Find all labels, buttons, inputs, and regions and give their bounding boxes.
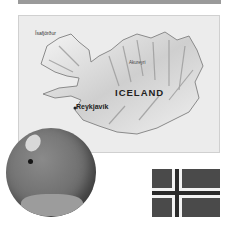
landmass xyxy=(21,194,83,216)
globe xyxy=(6,128,96,217)
place-label-akureyri: Akureyri xyxy=(129,60,146,65)
map-title: ICELAND xyxy=(115,87,164,98)
flag-cross-horizontal xyxy=(152,191,220,195)
place-label-isafjordur: Ísafjörður xyxy=(35,30,56,36)
header-bar xyxy=(18,0,221,4)
iceland-flag xyxy=(152,169,220,217)
location-marker-icon xyxy=(28,159,33,164)
greenland-ice xyxy=(22,132,44,155)
place-label-reykjavik: Reykjavík xyxy=(76,103,108,110)
